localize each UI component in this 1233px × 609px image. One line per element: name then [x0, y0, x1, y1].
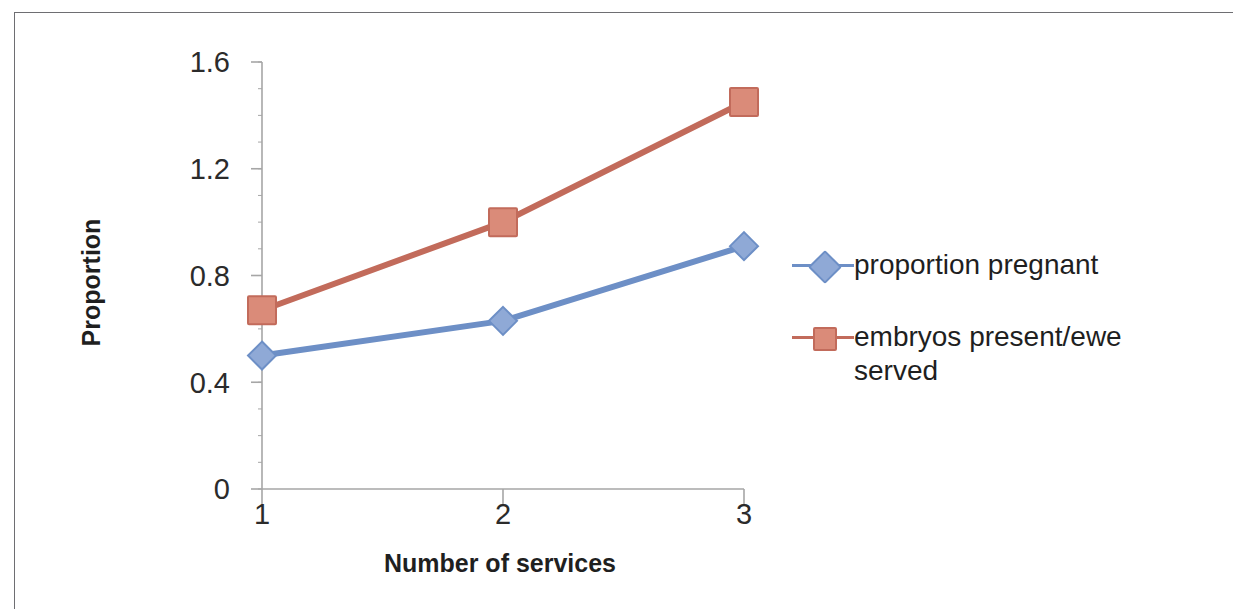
legend-key-diamond-icon — [792, 250, 854, 280]
data-point-square-marker — [248, 296, 276, 324]
data-point-diamond-marker — [730, 232, 758, 260]
chart-page: 1.6 1.2 0.8 0.4 0 1 2 3 Proportion Numbe… — [0, 0, 1233, 609]
legend-item-label: proportion pregnant — [854, 248, 1098, 282]
legend-item-proportion-pregnant: proportion pregnant — [792, 248, 1212, 282]
y-axis-tick-label: 0 — [120, 475, 230, 504]
data-point-square-marker — [489, 208, 517, 236]
diamond-marker-icon — [808, 250, 842, 284]
data-point-square-marker — [730, 88, 758, 116]
y-axis-tick-label: 0.4 — [120, 369, 230, 398]
legend-item-embryos-present: embryos present/ewe served — [792, 320, 1212, 388]
x-axis-tick-label: 2 — [468, 500, 538, 529]
data-point-diamond-marker — [489, 307, 517, 335]
y-axis-title: Proportion — [77, 183, 106, 383]
x-axis-title: Number of services — [240, 549, 760, 578]
chart-legend: proportion pregnant embryos present/ewe … — [792, 248, 1212, 426]
legend-key-square-icon — [792, 322, 854, 352]
square-marker-icon — [813, 327, 837, 351]
x-axis-tick-label: 3 — [709, 500, 779, 529]
data-point-diamond-marker — [248, 342, 276, 370]
series-line-diamond — [262, 246, 744, 355]
y-axis-tick-label: 0.8 — [120, 262, 230, 291]
line-chart: 1.6 1.2 0.8 0.4 0 1 2 3 Proportion Numbe… — [0, 0, 1233, 609]
series-line-square — [262, 102, 744, 310]
legend-item-label: embryos present/ewe served — [854, 320, 1184, 388]
x-axis-tick-label: 1 — [227, 500, 297, 529]
y-axis-tick-label: 1.6 — [120, 48, 230, 77]
y-axis-tick-label: 1.2 — [120, 155, 230, 184]
